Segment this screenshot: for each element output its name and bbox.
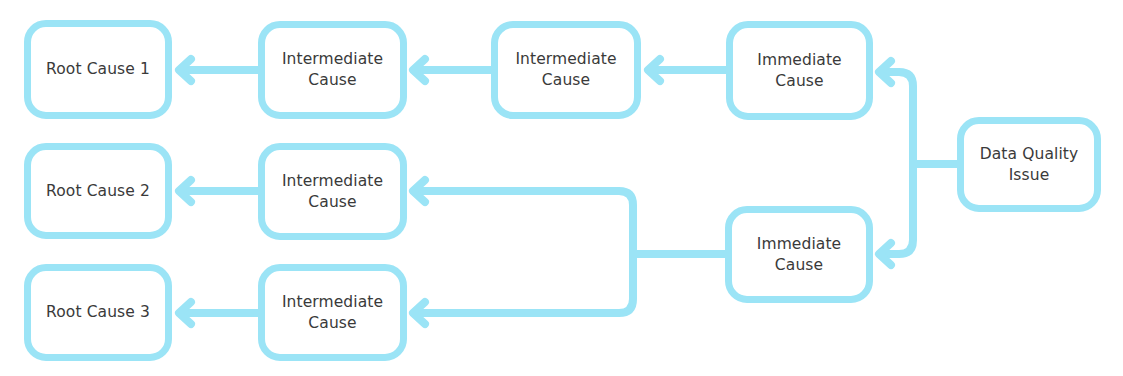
node-label: Intermediate Cause (282, 49, 383, 91)
arrow-intermediate-to-root-cause-2 (179, 180, 258, 202)
node-intermediate-cause-1a: Intermediate Cause (258, 21, 407, 119)
node-label: Intermediate Cause (282, 292, 383, 334)
node-root-cause-2: Root Cause 2 (24, 143, 172, 239)
node-intermediate-cause-2: Intermediate Cause (258, 143, 407, 240)
root-cause-diagram: Root Cause 1 Intermediate Cause Intermed… (0, 0, 1123, 376)
fork-data-quality-issue (879, 61, 958, 265)
node-label: Root Cause 3 (46, 302, 150, 323)
arrow-intermediate-to-intermediate (413, 59, 492, 81)
node-label: Root Cause 1 (46, 59, 150, 80)
node-label: Root Cause 2 (46, 181, 150, 202)
arrow-intermediate-to-root-cause-1 (179, 59, 258, 81)
node-label: Intermediate Cause (515, 49, 616, 91)
node-label: Intermediate Cause (282, 171, 383, 213)
node-intermediate-cause-3: Intermediate Cause (258, 264, 407, 361)
node-immediate-cause-2: Immediate Cause (725, 206, 873, 303)
node-data-quality-issue: Data Quality Issue (957, 117, 1101, 212)
node-root-cause-3: Root Cause 3 (24, 264, 172, 361)
arrow-immediate-to-intermediate (648, 59, 727, 81)
node-root-cause-1: Root Cause 1 (24, 20, 172, 119)
node-label: Immediate Cause (757, 50, 841, 92)
arrow-intermediate-to-root-cause-3 (179, 302, 258, 324)
fork-immediate-2 (413, 180, 726, 324)
node-label: Immediate Cause (757, 234, 841, 276)
node-immediate-cause-1: Immediate Cause (726, 21, 873, 120)
node-label: Data Quality Issue (980, 144, 1079, 186)
node-intermediate-cause-1b: Intermediate Cause (491, 21, 641, 119)
